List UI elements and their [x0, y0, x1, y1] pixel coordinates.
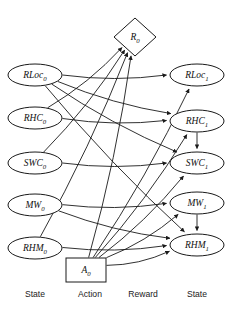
node-rhc1[interactable]: RHC1: [170, 110, 224, 132]
edge-MW0-to-MW1: [62, 203, 166, 207]
edge-line: [95, 135, 187, 258]
edge-RLoc0-to-SWC1: [52, 84, 177, 152]
node-swc0[interactable]: SWC0: [8, 152, 62, 174]
edge-RHM0-to-RHM1: [62, 246, 166, 251]
edge-line: [62, 203, 166, 207]
node-rhm1[interactable]: RHM1: [170, 234, 224, 256]
edge-line: [52, 84, 177, 152]
edge-A0-to-RHC1: [95, 135, 187, 258]
node-a0[interactable]: A0: [66, 258, 106, 282]
column-label-2: Reward: [128, 289, 158, 299]
column-label-3: State: [187, 289, 207, 299]
node-r0[interactable]: R0: [114, 18, 156, 56]
node-label: RHM1: [184, 240, 209, 251]
column-label-0: State: [25, 289, 45, 299]
edge-line: [62, 246, 166, 251]
edge-line: [63, 75, 167, 79]
node-rloc1[interactable]: RLoc1: [170, 64, 224, 86]
node-swc1[interactable]: SWC1: [170, 152, 224, 174]
node-label: RLoc1: [184, 70, 208, 81]
edge-RLoc0-to-RLoc1: [63, 75, 167, 79]
node-mw0[interactable]: MW0: [8, 194, 62, 216]
column-label-layer: StateActionRewardState: [25, 289, 207, 299]
node-layer: RLoc0RHC0SWC0MW0RHM0A0R0RLoc1RHC1SWC1MW1…: [8, 18, 224, 282]
node-mw1[interactable]: MW1: [170, 192, 224, 214]
column-label-1: Action: [78, 289, 102, 299]
edge-RLoc0-to-RHM1: [45, 86, 184, 232]
node-rhc0[interactable]: RHC0: [8, 107, 62, 129]
edge-line: [45, 86, 184, 232]
diagram-canvas: RLoc0RHC0SWC0MW0RHM0A0R0RLoc1RHC1SWC1MW1…: [0, 0, 232, 311]
node-rloc0[interactable]: RLoc0: [8, 64, 62, 86]
node-label: RHC1: [185, 116, 208, 127]
node-rhm0[interactable]: RHM0: [8, 237, 62, 259]
decision-network-diagram: RLoc0RHC0SWC0MW0RHM0A0R0RLoc1RHC1SWC1MW1…: [0, 0, 232, 311]
